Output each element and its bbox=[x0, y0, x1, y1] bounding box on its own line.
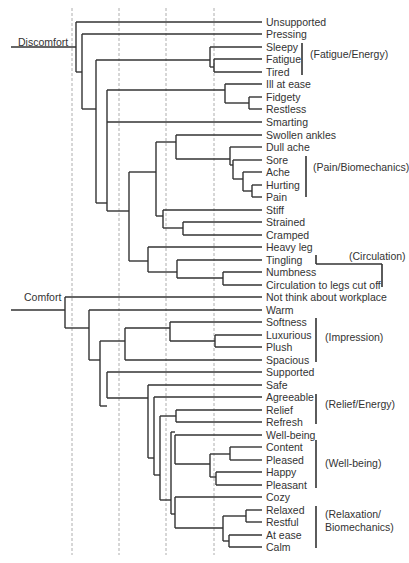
leaf-label: Pressing bbox=[266, 28, 307, 40]
leaf-label: Stiff bbox=[266, 204, 284, 216]
group-label: (Circulation) bbox=[349, 250, 406, 262]
group-label: (Impression) bbox=[325, 331, 383, 343]
leaf-label: Cramped bbox=[266, 229, 309, 241]
leaf-label: Relaxed bbox=[266, 504, 305, 516]
leaf-label: Luxurious bbox=[266, 329, 312, 341]
leaf-label: Swollen ankles bbox=[266, 129, 336, 141]
leaf-label: Refresh bbox=[266, 416, 303, 428]
leaf-label: Supported bbox=[266, 366, 314, 378]
group-label: (Fatigue/Energy) bbox=[310, 48, 388, 60]
leaf-label: Agreeable bbox=[266, 391, 314, 403]
leaf-label: Calm bbox=[266, 541, 291, 553]
leaf-label: Ill at ease bbox=[266, 78, 311, 90]
leaf-label: Fatigue bbox=[266, 53, 301, 65]
group-label: (Pain/Biomechanics) bbox=[313, 161, 409, 173]
leaf-label: Not think about workplace bbox=[266, 291, 387, 303]
leaf-label: At ease bbox=[266, 529, 302, 541]
leaf-label: Fidgety bbox=[266, 91, 300, 103]
leaf-label: Tingling bbox=[266, 254, 302, 266]
leaf-label: Smarting bbox=[266, 116, 308, 128]
leaf-label: Dull ache bbox=[266, 141, 310, 153]
leaf-label: Happy bbox=[266, 466, 296, 478]
group-label: (Relaxation/ bbox=[325, 508, 381, 520]
leaf-label: Sleepy bbox=[266, 41, 298, 53]
leaf-label: Tired bbox=[266, 66, 290, 78]
leaf-label: Restful bbox=[266, 516, 299, 528]
leaf-label: Safe bbox=[266, 379, 288, 391]
leaf-label: Hurting bbox=[266, 179, 300, 191]
leaf-label: Plush bbox=[266, 341, 292, 353]
root-label: Comfort bbox=[24, 291, 61, 303]
leaf-label: Pleasant bbox=[266, 479, 307, 491]
group-label: (Well-being) bbox=[325, 457, 381, 469]
leaf-label: Unsupported bbox=[266, 16, 326, 28]
leaf-label: Ache bbox=[266, 166, 290, 178]
leaf-label: Pleased bbox=[266, 454, 304, 466]
leaf-label: Spacious bbox=[266, 354, 309, 366]
leaf-label: Pain bbox=[266, 191, 287, 203]
leaf-label: Strained bbox=[266, 216, 305, 228]
leaf-label: Cozy bbox=[266, 491, 290, 503]
leaf-label: Restless bbox=[266, 103, 306, 115]
leaf-label: Content bbox=[266, 441, 303, 453]
group-label: (Relief/Energy) bbox=[325, 398, 395, 410]
leaf-label: Circulation to legs cut off bbox=[266, 279, 381, 291]
leaf-label: Numbness bbox=[266, 266, 316, 278]
group-label: Biomechanics) bbox=[325, 521, 394, 533]
leaf-label: Well-being bbox=[266, 429, 315, 441]
leaf-label: Sore bbox=[266, 154, 288, 166]
leaf-label: Relief bbox=[266, 404, 293, 416]
root-label: Discomfort bbox=[18, 36, 68, 48]
leaf-label: Softness bbox=[266, 316, 307, 328]
leaf-label: Heavy leg bbox=[266, 241, 313, 253]
leaf-label: Warm bbox=[266, 304, 294, 316]
